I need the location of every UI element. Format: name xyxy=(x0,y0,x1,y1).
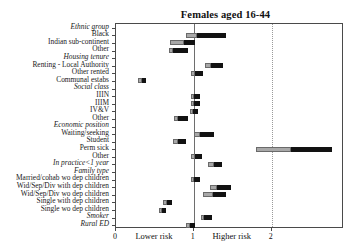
x-axis-tick xyxy=(193,228,194,231)
ci-bar xyxy=(170,40,194,45)
ci-bar xyxy=(205,63,223,68)
row-tick xyxy=(112,104,116,105)
row-tick xyxy=(112,51,116,52)
ci-bar xyxy=(173,139,186,144)
dotted-line-2 xyxy=(272,24,273,227)
ci-bar xyxy=(191,101,200,106)
row-tick xyxy=(112,134,116,135)
ci-bar-upper-segment xyxy=(162,208,166,213)
ci-bar-upper-segment xyxy=(204,215,213,220)
row-tick xyxy=(112,127,116,128)
row-tick xyxy=(112,96,116,97)
plot-area xyxy=(115,23,343,228)
ci-bar xyxy=(191,154,201,159)
category-label-column: Ethnic groupBlackIndian sub-continentOth… xyxy=(0,23,113,228)
ci-bar-upper-segment xyxy=(173,48,189,53)
ci-bar-upper-segment xyxy=(217,185,231,190)
ci-bar-upper-segment xyxy=(197,33,227,38)
row-tick xyxy=(112,202,116,203)
ci-bar-upper-segment xyxy=(190,223,195,228)
ci-bar-lower-segment xyxy=(203,192,213,197)
row-tick xyxy=(112,172,116,173)
row-tick xyxy=(112,157,116,158)
ci-bar xyxy=(138,78,147,83)
ci-bar xyxy=(186,33,226,38)
ci-bar xyxy=(194,132,214,137)
x-axis-tick-label: 0 xyxy=(113,232,117,241)
category-label: Rural ED xyxy=(80,220,109,228)
row-tick xyxy=(112,66,116,67)
ci-bar-lower-segment xyxy=(186,33,197,38)
ci-bar-upper-segment xyxy=(200,132,214,137)
cut-off-header-fragment xyxy=(36,0,156,7)
row-tick xyxy=(112,210,116,211)
ci-bar xyxy=(174,116,188,121)
ci-bar-upper-segment xyxy=(194,177,200,182)
ci-bar xyxy=(191,71,203,76)
ci-bar xyxy=(190,109,198,114)
row-tick xyxy=(112,164,116,165)
row-tick xyxy=(112,73,116,74)
x-axis-tick xyxy=(115,228,116,231)
ci-bar-upper-segment xyxy=(142,78,147,83)
ci-bar xyxy=(169,48,188,53)
ci-bar-upper-segment xyxy=(178,139,186,144)
ci-bar-upper-segment xyxy=(194,94,200,99)
row-tick xyxy=(112,58,116,59)
ci-bar xyxy=(163,200,172,205)
x-axis-caption-higher-risk: Higher risk xyxy=(212,232,250,241)
x-axis: 012Lower riskHigher risk xyxy=(115,228,343,252)
ci-bar-upper-segment xyxy=(195,154,202,159)
row-tick xyxy=(112,119,116,120)
ci-bar xyxy=(191,94,200,99)
row-tick xyxy=(112,218,116,219)
x-axis-tick-label: 1 xyxy=(191,232,195,241)
ci-bar xyxy=(186,223,195,228)
row-tick xyxy=(112,35,116,36)
ci-bar xyxy=(191,177,200,182)
row-tick xyxy=(112,195,116,196)
ci-bar-upper-segment xyxy=(194,101,200,106)
ci-bar-lower-segment xyxy=(256,147,291,152)
x-axis-caption-lower-risk: Lower risk xyxy=(135,232,172,241)
ci-bar-upper-segment xyxy=(167,200,172,205)
row-tick xyxy=(112,89,116,90)
ci-bar-lower-segment xyxy=(170,40,184,45)
ci-bar-upper-segment xyxy=(184,40,194,45)
chart-title-text: Females aged 16-44 xyxy=(181,9,270,20)
ci-bar xyxy=(159,208,166,213)
ci-bar xyxy=(203,192,226,197)
chart-title: Females aged 16-44 xyxy=(0,9,343,20)
ci-bar-upper-segment xyxy=(193,109,198,114)
row-tick xyxy=(112,142,116,143)
ci-bar-upper-segment xyxy=(178,116,187,121)
row-tick xyxy=(112,43,116,44)
row-tick xyxy=(112,225,116,226)
x-axis-tick xyxy=(271,228,272,231)
ci-bar xyxy=(208,162,222,167)
row-tick xyxy=(112,149,116,150)
ci-bar-upper-segment xyxy=(195,71,203,76)
row-tick xyxy=(112,180,116,181)
row-tick xyxy=(112,81,116,82)
ci-bar-upper-segment xyxy=(211,63,223,68)
ci-bar-upper-segment xyxy=(291,147,332,152)
x-axis-tick-label: 2 xyxy=(269,232,273,241)
ci-bar xyxy=(256,147,332,152)
row-tick xyxy=(112,187,116,188)
row-tick xyxy=(112,111,116,112)
figure-root: Females aged 16-44 Ethnic groupBlackIndi… xyxy=(0,0,343,252)
reference-line-1 xyxy=(194,24,195,227)
ci-bar-upper-segment xyxy=(214,162,222,167)
ci-bar xyxy=(210,185,231,190)
ci-bar-upper-segment xyxy=(213,192,226,197)
row-tick xyxy=(112,28,116,29)
ci-bar xyxy=(201,215,213,220)
ci-bar-lower-segment xyxy=(210,185,217,190)
